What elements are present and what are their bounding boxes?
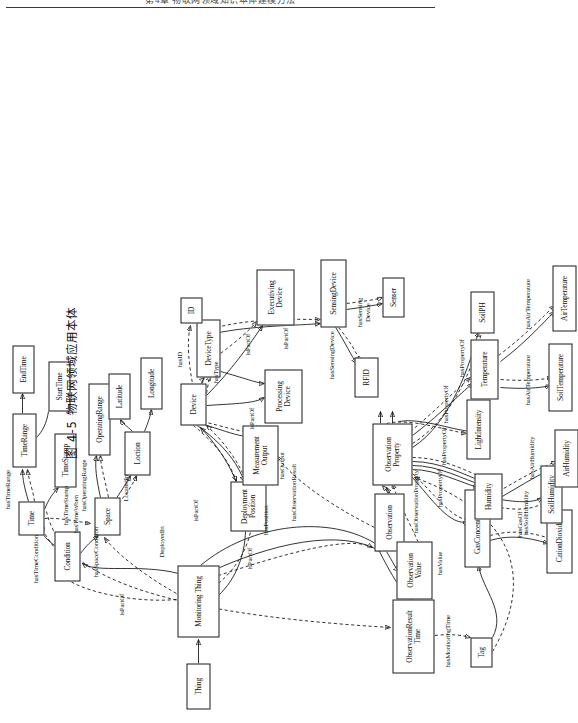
edge-label-has-property-of-gas: hasPropertyOf [436,469,444,507]
edge-label-has-soil-humidity: hasSoilHumidity [522,491,530,535]
edge-label-is-part-of-device: isPartOf [246,547,254,569]
node-tag[interactable]: Tag [470,637,492,667]
edge-label-is-part-of-thing: isPartOf [118,593,126,615]
node-rfid[interactable]: RFID [354,357,378,397]
page-running-head: 第4章 物联网领域知识本体建模方法 [0,0,441,9]
node-temperature[interactable]: Temperature [470,339,498,399]
node-time-range[interactable]: TimeRange [12,413,36,467]
node-air-humidity[interactable]: AirHumidity [554,429,578,487]
edge-label-has-observation-property: hasObservationProperty [412,470,420,533]
node-measurement-output[interactable]: Measurement Output [242,425,278,485]
running-head-text: 第4章 物联网领域知识本体建模方法 [0,0,441,6]
node-humidity[interactable]: Humidity [474,473,502,519]
node-operating-range[interactable]: OperatingRange [88,383,110,455]
figure-caption: 图 4-5 物联网领域应用本体 [63,307,79,458]
edge-label-has-value: hasValue [436,551,444,575]
edge-label-has-type: hasType [212,361,220,383]
node-monitoring-thing[interactable]: Monitoring Thing [177,565,219,637]
node-air-temperature[interactable]: AirTemperature [552,265,576,331]
edge-label-has-position: hasPosition [262,505,270,535]
node-observation-result-time[interactable]: ObservationResult Time [392,599,434,673]
edge-label-has-property-of-ph: hasPropertyOf [458,339,466,377]
node-longitude[interactable]: Longitude [140,357,162,409]
node-observation-value[interactable]: Observation Value [396,541,432,599]
node-location[interactable]: Loction [124,431,150,475]
edge-label-has-property-of-light: hasPropertyOf [440,427,448,465]
edge-label-deployed-in: DeployedIn [158,526,166,557]
node-soil-temperature[interactable]: SoilTemperature [548,343,572,411]
edge-label-has-air-temperature-air: hasAirTemperature [524,278,532,329]
edge-label-has-property-of-temp: hasPropertyOf [442,385,450,423]
edge-label-has-observation-result: hasObservationResult [290,464,298,521]
edge-label-has-time-condition: hasTimeCondition [32,534,40,583]
header-rule [6,7,435,8]
node-condition[interactable]: Condition [54,531,80,581]
edge-label-has-id: hasID [176,351,184,367]
node-light-intensity[interactable]: LightIntensity [466,399,490,459]
edge-label-is-part-of-processing: isPartOf [248,407,256,429]
edge-label-has-time-stamp: hasTimeStamp [62,486,70,525]
node-executiving-device[interactable]: Executiving Device [256,269,294,325]
edge-label-has-output: hasOutput [278,452,286,479]
node-observation-property[interactable]: Observation Property [372,423,412,485]
node-sensing-device[interactable]: SensingDevice [320,259,346,327]
edge-label-has-monitoring-time: hasMonitoringTime [444,615,452,667]
edge-label-is-part-of-executiving: isPartOf [244,333,252,355]
edge-label-has-air-humidity: hasAirHumidity [528,436,536,479]
edge-label-has-sensing-device-rfid: hasSensingDevice [328,331,336,379]
node-id[interactable]: ID [180,297,202,323]
node-time[interactable]: Time [18,501,44,535]
node-end-time[interactable]: EndTime [12,345,34,393]
edge-label-has-sensing-device-sensor: hasSensing Device [356,297,371,327]
node-processing-device[interactable]: Processing Device [264,369,302,423]
figure-region: Thing Monitoring Thing Condition Time Ti… [0,10,441,723]
edge-label-has-air-temperature-soil: hasAirTemperature [524,354,532,405]
edge-label-is-part-of-sensing: isPartOf [282,327,290,349]
node-sensor[interactable]: Senser [382,277,404,317]
edge-label-has-time-range: hasTimeRange [4,470,12,509]
edge-label-has-operating-range: hasOperatingRange [80,459,88,511]
edge-label-has-time-when: hasTimeWhen [72,495,80,533]
node-device[interactable]: Device [180,383,206,425]
edge-label-located-in: LocatedIn [122,474,130,501]
edge-label-has-space-condition: hasSpaceCondition [92,526,100,577]
edge-label-is-part-of-observation: isPartOf [192,499,200,521]
node-latitude[interactable]: Latitude [108,373,130,419]
node-soil-ph[interactable]: SoilPH [470,291,494,333]
node-thing[interactable]: Thing [186,663,210,709]
